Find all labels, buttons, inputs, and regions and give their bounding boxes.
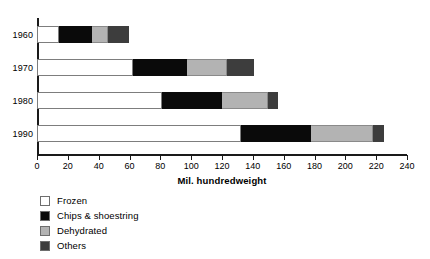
x-axis-tick-label: 160 [269, 161, 299, 172]
bar-segment-others [227, 59, 255, 76]
bar-segment-frozen [37, 92, 162, 109]
x-axis-tick-label: 80 [145, 161, 175, 172]
bar-segment-chips-shoestring [241, 125, 312, 142]
bar-segment-frozen [37, 125, 241, 142]
legend-swatch [40, 211, 50, 221]
bar-row [37, 26, 129, 43]
x-axis-tick [37, 155, 38, 160]
legend-item: Dehydrated [40, 223, 139, 238]
x-axis-tick [191, 155, 192, 160]
bar-segment-dehydrated [222, 92, 268, 109]
legend-swatch [40, 196, 50, 206]
bar-segment-dehydrated [311, 125, 373, 142]
x-axis-tick-label: 20 [53, 161, 83, 172]
bar-segment-dehydrated [92, 26, 107, 43]
chart-legend: FrozenChips & shoestringDehydratedOthers [40, 193, 139, 253]
x-axis-tick-label: 60 [115, 161, 145, 172]
x-axis-tick-label: 240 [392, 161, 422, 172]
legend-item: Frozen [40, 193, 139, 208]
y-axis-tick-label: 1970 [0, 63, 33, 73]
legend-label: Dehydrated [57, 225, 107, 236]
legend-swatch [40, 241, 50, 251]
x-axis-tick [284, 155, 285, 160]
bar-segment-frozen [37, 26, 59, 43]
bar-segment-chips-shoestring [59, 26, 93, 43]
x-axis-tick [315, 155, 316, 160]
bar-segment-others [268, 92, 277, 109]
bar-segment-others [373, 125, 384, 142]
legend-label: Others [57, 240, 86, 251]
x-axis-tick [222, 155, 223, 160]
x-axis-tick [68, 155, 69, 160]
bar-segment-chips-shoestring [162, 92, 222, 109]
bar-segment-frozen [37, 59, 133, 76]
y-axis-tick-labels: 1960197019801990 [0, 18, 33, 155]
legend-label: Chips & shoestring [57, 210, 139, 221]
legend-item: Chips & shoestring [40, 208, 139, 223]
x-axis-tick-label: 40 [84, 161, 114, 172]
x-axis-title: Mil. hundredweight [37, 175, 407, 186]
bar-segment-chips-shoestring [133, 59, 187, 76]
bar-row [37, 92, 278, 109]
bar-row [37, 59, 254, 76]
x-axis-tick [407, 155, 408, 160]
x-axis-tick [99, 155, 100, 160]
legend-item: Others [40, 238, 139, 253]
x-axis-tick [376, 155, 377, 160]
y-axis-tick-label: 1960 [0, 30, 33, 40]
bar-row [37, 125, 384, 142]
legend-swatch [40, 226, 50, 236]
x-axis-tick-label: 120 [207, 161, 237, 172]
bar-segment-dehydrated [187, 59, 227, 76]
y-axis-tick-label: 1980 [0, 96, 33, 106]
x-axis-tick [345, 155, 346, 160]
x-axis-tick-label: 220 [361, 161, 391, 172]
y-axis-tick-label: 1990 [0, 129, 33, 139]
legend-label: Frozen [57, 195, 87, 206]
x-axis-tick-label: 140 [238, 161, 268, 172]
x-axis-tick [253, 155, 254, 160]
x-axis-tick [130, 155, 131, 160]
bar-segment-others [108, 26, 130, 43]
x-axis-tick [160, 155, 161, 160]
x-axis-tick-label: 0 [22, 161, 52, 172]
x-axis-tick-label: 180 [300, 161, 330, 172]
x-axis-tick-label: 100 [176, 161, 206, 172]
stacked-bar-chart: 1960197019801990 Mil. hundredweight Froz… [0, 0, 430, 259]
x-axis-tick-label: 200 [330, 161, 360, 172]
